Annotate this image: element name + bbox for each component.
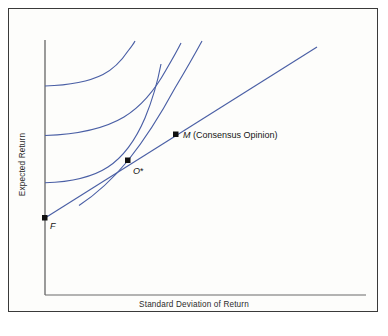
indifference-curves: [45, 41, 181, 183]
indifference-curve-1: [45, 64, 161, 183]
indifference-curve-3: [45, 41, 135, 86]
market-label-text: M: [183, 130, 191, 140]
point-label-risk-free: F: [50, 221, 56, 231]
market-label-note: (Consensus Opinion): [191, 130, 278, 140]
x-axis-title: Standard Deviation of Return: [0, 300, 388, 309]
marker-F: [42, 215, 48, 221]
optimal-label-text: O: [133, 166, 140, 176]
indifference-curve-2: [45, 43, 181, 136]
risk-free-label-text: F: [50, 221, 56, 231]
optimal-label-superscript: *: [140, 166, 144, 176]
marker-M: [173, 132, 179, 138]
efficient-frontier: [79, 41, 202, 206]
chart-canvas: [0, 0, 388, 336]
figure-root: Standard Deviation of Return Expected Re…: [0, 0, 388, 336]
point-label-optimal-portfolio: O*: [133, 166, 144, 176]
point-label-market-portfolio: M (Consensus Opinion): [183, 130, 278, 140]
marker-O-star: [125, 158, 131, 164]
y-axis-title: Expected Return: [18, 105, 27, 225]
efficient-frontier-curve: [79, 41, 202, 206]
